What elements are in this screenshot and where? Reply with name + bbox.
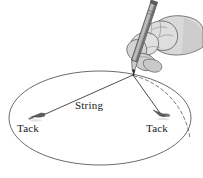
tack-left-icon <box>29 113 46 122</box>
tack-left-label: Tack <box>17 122 39 134</box>
string-label: String <box>75 99 103 111</box>
ellipse-construction-diagram: Tack Tack String <box>0 0 203 178</box>
pencil-contact-point <box>133 74 135 76</box>
tack-right-icon <box>153 110 170 120</box>
tack-right-label: Tack <box>146 122 168 134</box>
diagram-canvas <box>0 0 203 178</box>
